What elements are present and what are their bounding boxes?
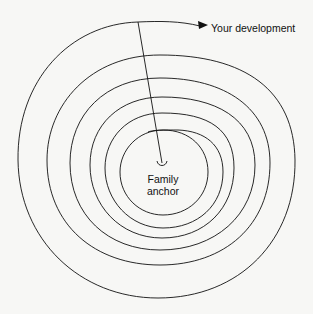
arrowhead-icon: [198, 21, 208, 29]
spiral-graphic: [0, 0, 313, 314]
family-anchor-line1: Family: [141, 173, 185, 185]
spiral-path: [18, 21, 295, 298]
your-development-label: Your development: [211, 22, 295, 34]
family-anchor-line2: anchor: [141, 185, 185, 197]
family-anchor-label: Family anchor: [141, 173, 185, 197]
spiral-diagram: Your development Family anchor: [0, 0, 313, 314]
